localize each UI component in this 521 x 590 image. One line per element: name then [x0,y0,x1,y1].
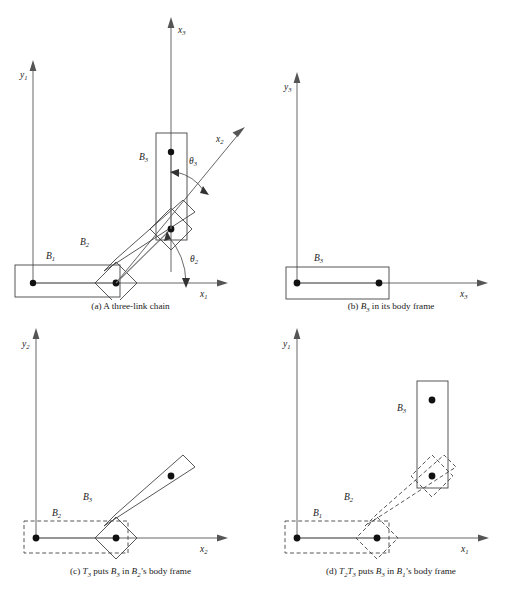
body-B2-d: B2 [344,455,456,526]
axis-label-x2-c: x2 [199,544,208,555]
body-B3-d: B3 [397,381,448,488]
caption-panel-a: (a) A three-link chain [0,301,261,311]
axis-x2: x2 [116,127,245,283]
axis-label-x3-b: x3 [459,289,468,300]
body-label-B3-d: B3 [397,403,407,414]
body-label-B2: B2 [80,237,90,248]
body-B3-c: B3 [83,455,195,526]
axis-y1-d: y1 [282,328,300,538]
panel-d: y1 x1 B1 B2 [261,320,521,565]
axis-label-y1: y1 [19,70,28,81]
body-label-B3-b: B3 [314,253,324,264]
axis-label-x1-d: x1 [460,544,469,555]
body-B1-d: B1 [285,508,389,553]
angle-label-theta2: θ2 [190,254,199,265]
figure-container: y1 x1 x3 x2 B1 [0,0,521,590]
body-B3: B3 [139,133,187,240]
caption-panel-d: (d) T2T3 puts B3 in B1’s body frame [261,566,521,578]
panel-a: y1 x1 x3 x2 B1 [0,0,261,300]
body-B3-b: B3 [286,253,389,299]
panel-b: y3 x3 B3 [261,0,521,300]
axis-y3: y3 [283,72,300,283]
panel-c: y2 x2 B2 B3 [0,320,261,565]
axis-y1: y1 [19,60,36,283]
axis-y2: y2 [21,328,39,538]
body-B2: B2 [80,200,195,283]
axis-label-y3: y3 [283,82,292,93]
body-label-B2-d: B2 [344,492,354,503]
caption-panel-b: (b) B3 in its body frame [261,301,521,313]
body-label-B1-d: B1 [313,508,322,519]
body-label-B2-c: B2 [52,508,62,519]
body-label-B3-c: B3 [83,492,93,503]
caption-panel-c: (c) T3 puts B3 in B2’s body frame [0,566,261,578]
axis-x3: x3 [168,17,187,272]
axis-label-y2: y2 [21,339,30,350]
angle-label-theta3: θ3 [189,156,198,167]
body-label-B3: B3 [139,152,149,163]
body-label-B1: B1 [46,251,55,262]
axis-label-x1: x1 [199,289,208,300]
angle-theta3: θ3 [170,156,209,195]
axis-label-y1-d: y1 [282,339,291,350]
axis-label-x2: x2 [215,134,224,145]
axis-label-x3: x3 [177,25,186,36]
joint-square-1 [95,262,137,300]
body-B2-c: B2 [24,508,128,553]
